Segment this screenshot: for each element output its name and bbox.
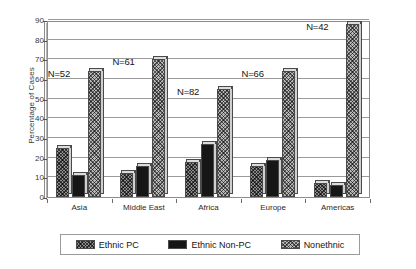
bar-top <box>186 159 200 162</box>
bar-top <box>315 180 329 183</box>
bar-top <box>153 56 167 59</box>
x-tick-label: Middle East <box>123 203 165 212</box>
bar-side <box>359 21 362 194</box>
bar <box>185 162 198 197</box>
bar <box>217 89 230 197</box>
x-tick-label: Africa <box>198 203 218 212</box>
bar-face <box>250 166 263 197</box>
y-tick-label: 50 <box>4 95 44 104</box>
caption-sliver <box>58 262 288 269</box>
legend-swatch <box>76 240 95 249</box>
bar-top <box>137 163 151 166</box>
bar-face <box>72 175 85 197</box>
n-label: N=42 <box>306 21 328 32</box>
bar <box>136 166 149 197</box>
bar <box>330 185 343 197</box>
y-tick-label: 70 <box>4 55 44 64</box>
bar-face <box>201 144 214 197</box>
x-tick-mark <box>241 199 242 203</box>
bar-face <box>185 162 198 197</box>
bar-top <box>331 182 345 185</box>
x-tick-mark <box>47 199 48 203</box>
n-label: N=52 <box>48 68 70 79</box>
bar-top <box>251 163 265 166</box>
gridline <box>48 39 369 40</box>
y-tick-label: 20 <box>4 154 44 163</box>
legend-label: Ethnic PC <box>99 240 139 250</box>
n-label: N=82 <box>177 86 199 97</box>
bar-side <box>165 56 168 194</box>
bar-face <box>217 89 230 197</box>
bar <box>88 71 101 197</box>
bar-face <box>266 160 279 197</box>
gridline <box>48 58 369 59</box>
bar <box>314 183 327 197</box>
bar-top <box>267 157 281 160</box>
bar-face <box>282 71 295 197</box>
bar <box>266 160 279 197</box>
bar-face <box>314 183 327 197</box>
n-label: N=66 <box>242 68 264 79</box>
bar <box>120 173 133 197</box>
legend-item: Nonethnic <box>281 240 345 250</box>
bar <box>56 148 69 197</box>
x-tick-mark <box>370 199 371 203</box>
bar-top <box>283 68 297 71</box>
bar-face <box>88 71 101 197</box>
x-tick-label: Asia <box>72 203 88 212</box>
legend-swatch <box>281 240 300 249</box>
y-tick-label: 0 <box>4 193 44 202</box>
y-tick-label: 40 <box>4 114 44 123</box>
x-tick-mark <box>176 199 177 203</box>
bar <box>72 175 85 197</box>
x-tick-mark <box>305 199 306 203</box>
legend-swatch <box>168 240 187 249</box>
x-tick-label: Europe <box>260 203 286 212</box>
bar-face <box>120 173 133 197</box>
bar-side <box>295 68 298 194</box>
legend-item: Ethnic Non-PC <box>168 240 251 250</box>
bar-top <box>121 170 135 173</box>
bar-chart-figure: Percentage of Cases 9080706050403020100 … <box>0 0 416 269</box>
x-tick-label: Americas <box>321 203 354 212</box>
y-tick-label: 30 <box>4 134 44 143</box>
bar-face <box>136 166 149 197</box>
bar-top <box>73 172 87 175</box>
chart-legend: Ethnic PCEthnic Non-PCNonethnic <box>60 234 360 255</box>
bar-top <box>57 145 71 148</box>
plot-area <box>47 21 370 198</box>
x-tick-mark <box>112 199 113 203</box>
bar <box>152 59 165 197</box>
legend-item: Ethnic PC <box>76 240 139 250</box>
bar <box>346 24 359 197</box>
y-tick-label: 10 <box>4 173 44 182</box>
bar-top <box>218 86 232 89</box>
bar-top <box>347 21 361 24</box>
legend-label: Ethnic Non-PC <box>191 240 251 250</box>
legend-label: Nonethnic <box>304 240 345 250</box>
bar-top <box>202 141 216 144</box>
n-label: N=61 <box>112 56 134 67</box>
y-tick-label: 80 <box>4 36 44 45</box>
y-axis-spine <box>44 21 45 199</box>
bar-top <box>89 68 103 71</box>
bar-face <box>330 185 343 197</box>
y-tick-label: 60 <box>4 75 44 84</box>
bar-side <box>230 86 233 194</box>
bar <box>250 166 263 197</box>
y-tick-label: 90 <box>4 16 44 25</box>
bar-face <box>56 148 69 197</box>
bar <box>201 144 214 197</box>
bar <box>282 71 295 197</box>
bar-side <box>101 68 104 194</box>
bar-face <box>346 24 359 197</box>
gridline <box>48 19 369 20</box>
bar-face <box>152 59 165 197</box>
